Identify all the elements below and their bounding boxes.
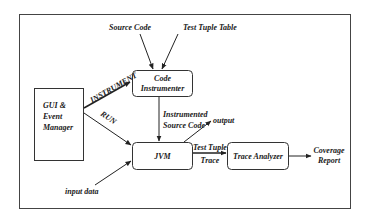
trace-analyzer-node: Trace Analyzer bbox=[228, 143, 289, 170]
coverage-label-line1: Coverage bbox=[313, 146, 345, 155]
trace-analyzer-label: Trace Analyzer bbox=[233, 152, 284, 161]
input-data-arrow bbox=[95, 161, 131, 185]
trace-label-line1: Test Tuple bbox=[193, 143, 227, 152]
gui-label-line3: Manager bbox=[42, 123, 74, 132]
run-label: RUN bbox=[98, 109, 119, 127]
instrument-label: INSTRUMENT bbox=[88, 70, 140, 105]
gui-event-manager-node: GUI & Event Manager bbox=[35, 89, 84, 161]
code-instrumenter-node: Code Instrumenter bbox=[133, 71, 193, 97]
architecture-diagram: GUI & Event Manager Code Instrumenter JV… bbox=[0, 0, 368, 219]
test-tuple-table-arrow bbox=[162, 34, 178, 69]
output-label: output bbox=[213, 116, 235, 125]
jvm-label: JVM bbox=[153, 152, 171, 161]
instrumented-label-line2: Source Code bbox=[163, 121, 205, 130]
trace-label-line2: Trace bbox=[201, 156, 220, 165]
source-code-arrow bbox=[140, 34, 153, 69]
instrumenter-label-line2: Instrumenter bbox=[140, 84, 185, 93]
instrumenter-label-line1: Code bbox=[154, 74, 171, 83]
test-tuple-table-label: Test Tuple Table bbox=[183, 23, 237, 32]
source-code-label: Source Code bbox=[109, 23, 151, 32]
gui-label-line1: GUI & bbox=[43, 101, 67, 110]
coverage-label-line2: Report bbox=[317, 156, 341, 165]
instrumented-label-line1: Instrumented bbox=[162, 110, 208, 119]
gui-label-line2: Event bbox=[42, 112, 63, 121]
jvm-node: JVM bbox=[133, 143, 193, 170]
input-data-label: input data bbox=[65, 187, 99, 196]
